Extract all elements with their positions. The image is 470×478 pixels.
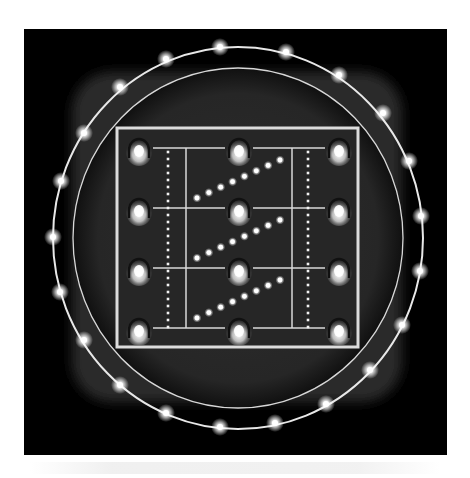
electrode-grid — [117, 128, 358, 347]
electrode-core — [234, 205, 244, 217]
diagonal-dot — [242, 174, 247, 179]
electrode-icon — [126, 318, 152, 346]
glow-point-core — [418, 213, 424, 219]
dotted-vertical-dot — [167, 291, 170, 294]
dotted-vertical-dot — [307, 179, 310, 182]
dotted-vertical-dot — [167, 193, 170, 196]
dotted-vertical-dot — [167, 228, 170, 231]
electrode-icon — [126, 138, 152, 166]
dotted-vertical-dot — [167, 270, 170, 273]
glow-point-core — [217, 44, 223, 50]
glow-point-core — [399, 322, 405, 328]
dotted-vertical-dot — [307, 214, 310, 217]
glow-point-core — [417, 268, 423, 274]
dotted-vertical-dot — [167, 319, 170, 322]
glow-point-core — [336, 72, 342, 78]
dotted-vertical-dot — [167, 326, 170, 329]
glow-point-core — [50, 234, 56, 240]
diagonal-dot — [218, 245, 223, 250]
dotted-vertical-dot — [307, 291, 310, 294]
electrode-icon — [226, 138, 252, 166]
diagonal-dot — [195, 316, 200, 321]
dotted-vertical-dot — [307, 270, 310, 273]
scan-artifact — [30, 462, 440, 474]
diagonal-dot — [266, 283, 271, 288]
electrode-core — [134, 265, 144, 277]
electrode-icon — [226, 258, 252, 286]
diagonal-dot — [242, 234, 247, 239]
glow-point-core — [57, 289, 63, 295]
dotted-vertical-dot — [307, 277, 310, 280]
dotted-vertical-dot — [307, 207, 310, 210]
electrode-core — [334, 145, 344, 157]
diagonal-dot — [195, 196, 200, 201]
electrode-icon — [326, 138, 352, 166]
dotted-vertical-dot — [307, 242, 310, 245]
dotted-vertical-dot — [307, 298, 310, 301]
dotted-vertical-dot — [167, 179, 170, 182]
glow-point-core — [117, 84, 123, 90]
electrode-icon — [126, 258, 152, 286]
dotted-vertical-dot — [167, 242, 170, 245]
diagonal-dot — [218, 305, 223, 310]
electrode-icon — [326, 318, 352, 346]
dotted-vertical-dot — [167, 207, 170, 210]
electrode-core — [234, 265, 244, 277]
diagonal-dot — [254, 288, 259, 293]
glow-point-core — [117, 382, 123, 388]
dotted-vertical-dot — [167, 263, 170, 266]
dotted-vertical-dot — [167, 165, 170, 168]
dotted-vertical-dot — [307, 305, 310, 308]
dotted-vertical-dot — [167, 214, 170, 217]
dotted-vertical-dot — [307, 200, 310, 203]
electrode-icon — [326, 198, 352, 226]
dotted-vertical-dot — [307, 249, 310, 252]
dotted-vertical-dot — [167, 235, 170, 238]
glow-point-core — [81, 337, 87, 343]
dotted-vertical-dot — [167, 277, 170, 280]
glow-point-core — [406, 158, 412, 164]
dotted-vertical-dot — [167, 312, 170, 315]
glow-point-core — [272, 420, 278, 426]
dotted-vertical-dot — [307, 284, 310, 287]
electrode-icon — [126, 198, 152, 226]
diagonal-dot — [218, 185, 223, 190]
dotted-vertical-dot — [167, 284, 170, 287]
diagonal-dot — [254, 168, 259, 173]
electrode-core — [134, 205, 144, 217]
glow-point-core — [323, 401, 329, 407]
electrode-core — [134, 145, 144, 157]
dotted-vertical-dot — [167, 172, 170, 175]
electrode-icon — [226, 318, 252, 346]
electrode-icon — [226, 198, 252, 226]
ion-trap-diagram — [0, 0, 470, 478]
diagonal-dot — [195, 256, 200, 261]
diagonal-dot — [254, 228, 259, 233]
electrode-core — [134, 325, 144, 337]
diagonal-dot — [206, 310, 211, 315]
diagonal-dot — [206, 190, 211, 195]
dotted-vertical-dot — [307, 235, 310, 238]
dotted-vertical-dot — [167, 151, 170, 154]
dotted-vertical-dot — [307, 151, 310, 154]
glow-point-core — [217, 424, 223, 430]
glow-point-core — [163, 56, 169, 62]
dotted-vertical-dot — [167, 200, 170, 203]
diagonal-dot — [230, 299, 235, 304]
diagonal-dot — [266, 163, 271, 168]
diagonal-dot — [206, 250, 211, 255]
dotted-vertical-dot — [307, 319, 310, 322]
electrode-core — [334, 205, 344, 217]
diagonal-dot — [266, 223, 271, 228]
dotted-vertical-dot — [307, 228, 310, 231]
dotted-vertical-dot — [307, 263, 310, 266]
electrode-core — [334, 325, 344, 337]
diagonal-dot — [278, 218, 283, 223]
diagonal-dot — [278, 278, 283, 283]
glow-point-core — [58, 178, 64, 184]
dotted-vertical-dot — [167, 249, 170, 252]
dotted-vertical-dot — [307, 326, 310, 329]
dotted-vertical-dot — [167, 256, 170, 259]
glow-point-core — [163, 410, 169, 416]
diagonal-dot — [230, 239, 235, 244]
